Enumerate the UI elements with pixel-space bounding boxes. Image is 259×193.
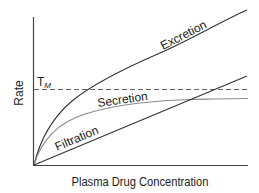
tm-label: TM [37,75,51,90]
filtration-label: Filtration [53,123,101,154]
x-axis-label: Plasma Drug Concentration [72,175,209,189]
rate-vs-concentration-diagram: Rate Plasma Drug Concentration TM Excret… [0,0,259,193]
y-axis-label: Rate [12,80,26,106]
tm-label-subscript: M [44,81,51,90]
secretion-label: Secretion [96,89,148,110]
excretion-label: Excretion [158,17,209,52]
secretion-curve [34,99,248,166]
